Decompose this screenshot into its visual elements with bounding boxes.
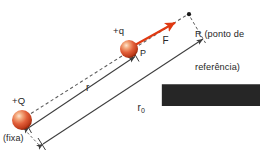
reference-point-label: R (ponto de referência): [195, 7, 244, 95]
mobile-test-charge-sphere: [120, 40, 138, 58]
physics-force-diagram: +Q (fixa) +q P F R (ponto de referência)…: [0, 0, 260, 156]
reference-point-label-line2: referência): [195, 62, 244, 73]
distance-r-line: [29, 57, 135, 128]
fixed-source-charge-sphere: [12, 110, 32, 130]
distance-r-label: r: [86, 83, 89, 94]
force-vector-label: F: [151, 15, 169, 57]
distance-r0-subscript: 0: [141, 106, 145, 113]
distance-r0-tick-start: [38, 138, 46, 150]
test-charge-label: +q: [113, 26, 124, 37]
source-charge-label: +Q: [12, 96, 25, 107]
distance-r0-label: r0: [126, 92, 145, 126]
point-p-label: P: [140, 48, 146, 59]
reference-point-label-line1: R (ponto de: [195, 29, 244, 40]
source-charge-note: (fixa): [3, 133, 24, 144]
